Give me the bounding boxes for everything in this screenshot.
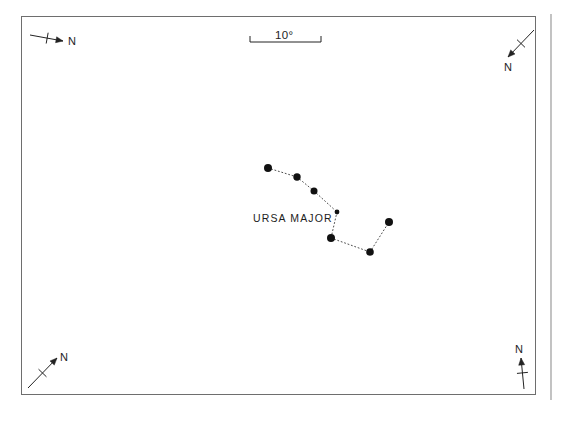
star-chart-figure: 10° URSA MAJOR N N N N <box>0 0 561 429</box>
compass-label-top-left: N <box>68 36 76 47</box>
constellation-name-label: URSA MAJOR <box>253 213 333 224</box>
star-marker <box>293 173 300 180</box>
compass-label-bottom-left: N <box>60 352 68 363</box>
chart-border <box>22 17 536 395</box>
compass-label-bottom-right: N <box>515 344 523 355</box>
star-marker <box>385 218 393 226</box>
star-marker <box>327 234 335 242</box>
scale-bar-label: 10° <box>275 30 293 42</box>
star-marker <box>311 188 318 195</box>
compass-label-top-right: N <box>504 62 512 73</box>
star-marker <box>366 248 374 256</box>
star-marker <box>335 210 340 215</box>
star-marker <box>264 164 272 172</box>
